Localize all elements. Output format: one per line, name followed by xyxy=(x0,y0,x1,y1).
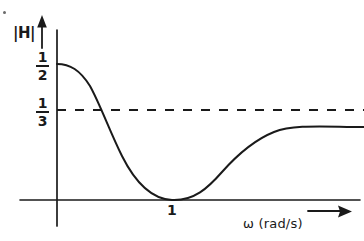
x-axis-label: ω (rad/s) xyxy=(243,217,303,230)
y-axis-direction-arrow-icon xyxy=(37,15,47,48)
fraction-numerator: 1 xyxy=(38,50,48,64)
fraction-denominator: 3 xyxy=(38,114,48,128)
magnitude-response-curve xyxy=(57,64,364,200)
y-tick-label-one-third: 1 3 xyxy=(36,96,49,129)
y-tick-label-one-half: 1 2 xyxy=(36,50,49,83)
x-tick-label-one: 1 xyxy=(167,203,177,217)
fraction-numerator: 1 xyxy=(38,96,48,110)
fraction-denominator: 2 xyxy=(38,68,48,82)
plot-canvas xyxy=(0,0,364,241)
y-axis-label: |H| xyxy=(13,26,35,41)
frequency-response-figure: |H| 1 2 1 3 1 ω (rad/s) xyxy=(0,0,364,241)
x-axis-direction-arrow-icon xyxy=(308,206,352,218)
